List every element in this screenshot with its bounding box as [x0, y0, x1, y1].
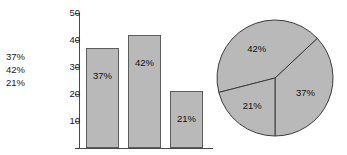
y-tick-10: 10	[58, 121, 80, 122]
y-tick-20: 20	[58, 94, 80, 95]
y-tick-label-50: 50	[65, 8, 80, 17]
pie-svg	[213, 14, 341, 144]
bar-label-1: 42%	[128, 57, 161, 68]
x-axis-line	[79, 148, 213, 149]
bar-chart: 10 20 30 40 50 37% 42% 21%	[58, 8, 218, 153]
legend-value-list: 37% 42% 21%	[6, 50, 52, 89]
y-tick-label-20: 20	[65, 89, 80, 98]
y-tick-0	[58, 148, 80, 149]
bar-0	[86, 48, 119, 148]
cutoff-text-strip	[0, 0, 347, 2]
y-tick-30: 30	[58, 67, 80, 68]
y-tick-40: 40	[58, 40, 80, 41]
pie-chart: 37% 42% 21%	[213, 14, 341, 144]
legend-value-2: 21%	[6, 76, 52, 89]
figure-container: 37% 42% 21% 10 20 30 40 50 37	[0, 0, 347, 155]
y-tick-label-40: 40	[65, 35, 80, 44]
y-tick-label-10: 10	[65, 116, 80, 125]
y-tick-label-30: 30	[65, 62, 80, 71]
bar-label-2: 21%	[170, 113, 203, 124]
legend-value-0: 37%	[6, 50, 52, 63]
legend-value-1: 42%	[6, 63, 52, 76]
y-tick-50: 50	[58, 13, 80, 14]
pie-label-2: 21%	[243, 100, 262, 111]
pie-label-1: 42%	[247, 43, 266, 54]
bar-label-0: 37%	[86, 70, 119, 81]
pie-label-0: 37%	[296, 87, 315, 98]
bar-1	[128, 35, 161, 148]
